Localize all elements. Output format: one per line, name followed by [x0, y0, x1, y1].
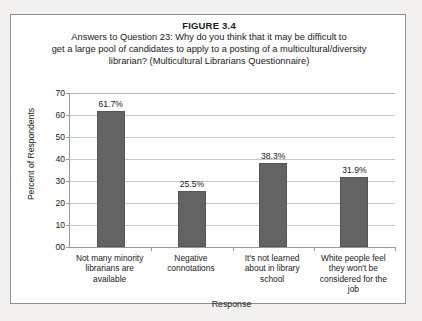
bar-slot: 31.9% [314, 93, 395, 247]
y-tick-label-50: 50 [55, 132, 65, 142]
y-axis-title: Percent of Respondents [26, 99, 36, 209]
y-tick-label-30: 30 [55, 176, 65, 186]
x-category-label-line: Not many minority [69, 253, 150, 263]
figure-title-line-2: get a large pool of candidates to apply … [15, 44, 403, 56]
bar-chart: Percent of Respondents 0010203040506070 … [11, 77, 405, 303]
y-tick-label-10: 10 [55, 220, 65, 230]
x-category-label-1: Not many minoritylibrarians areavailable [69, 253, 150, 284]
bar-value-label-3: 38.3% [233, 151, 314, 161]
y-tick-label-70: 70 [55, 88, 65, 98]
x-category-label-line: about in library [232, 263, 313, 273]
bar-value-label-2: 25.5% [151, 179, 232, 189]
x-category-label-line: It's not learned [232, 253, 313, 263]
x-tick-mark-3 [314, 247, 315, 251]
figure-number-label: FIGURE 3.4 [15, 20, 403, 32]
x-category-label-4: White people feelthey won't beconsidered… [313, 253, 394, 294]
figure-title-block: FIGURE 3.4 Answers to Question 23: Why d… [15, 20, 403, 67]
bar-4[interactable] [340, 177, 368, 247]
x-category-label-3: It's not learnedabout in libraryschool [232, 253, 313, 284]
y-tick-label-20: 20 [55, 198, 65, 208]
bar-value-label-4: 31.9% [314, 165, 395, 175]
x-tick-mark-end [395, 247, 396, 251]
x-category-label-line: school [232, 274, 313, 284]
bar-slot: 38.3% [233, 93, 314, 247]
x-category-label-line: librarians are [69, 263, 150, 273]
page-background: FIGURE 3.4 Answers to Question 23: Why d… [0, 0, 422, 321]
x-category-label-2: Negativeconnotations [150, 253, 231, 274]
bar-slot: 61.7% [70, 93, 151, 247]
x-category-label-line: they won't be [313, 263, 394, 273]
x-category-label-line: considered for the [313, 274, 394, 284]
x-category-label-line: White people feel [313, 253, 394, 263]
x-tick-mark-1 [151, 247, 152, 251]
bar-3[interactable] [259, 163, 287, 247]
x-tick-mark-2 [233, 247, 234, 251]
figure-title-line-1: Answers to Question 23: Why do you think… [15, 32, 403, 44]
figure-frame: FIGURE 3.4 Answers to Question 23: Why d… [10, 14, 406, 304]
y-tick-mark-00 [66, 247, 70, 248]
y-tick-label-60: 60 [55, 110, 65, 120]
bar-value-label-1: 61.7% [70, 99, 151, 109]
x-category-label-line: job [313, 284, 394, 294]
figure-title-line-3: librarian? (Multicultural Librarians Que… [15, 56, 403, 68]
y-tick-label-40: 40 [55, 154, 65, 164]
x-category-label-line: available [69, 274, 150, 284]
bar-2[interactable] [178, 191, 206, 247]
plot-area: 0010203040506070 61.7%25.5%38.3%31.9% [69, 93, 395, 248]
x-axis-title: Response [69, 299, 394, 309]
bar-1[interactable] [97, 111, 125, 247]
x-category-label-line: Negative [150, 253, 231, 263]
x-category-label-line: connotations [150, 263, 231, 273]
y-tick-label-00: 00 [55, 242, 65, 252]
bar-slot: 25.5% [151, 93, 232, 247]
